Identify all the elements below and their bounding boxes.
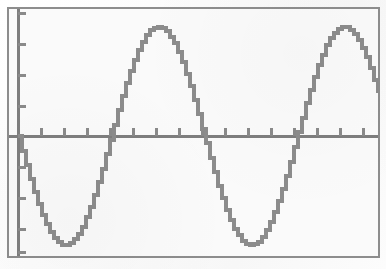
screenshot-root: Graphing Calculator Plot Screen bbox=[0, 0, 386, 269]
plot-area[interactable] bbox=[9, 9, 378, 256]
sine-wave-graph bbox=[9, 9, 378, 256]
calculator-screen-frame[interactable] bbox=[7, 7, 380, 258]
